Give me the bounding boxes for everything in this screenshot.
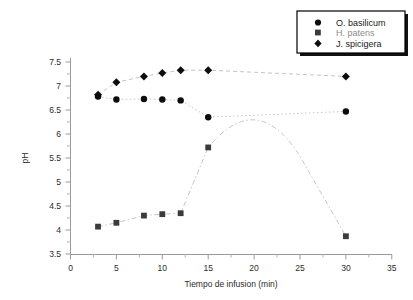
x-axis-title: Tiempo de infusion (min) [184,279,277,289]
legend-label-h-patens: H. patens [336,28,375,38]
chart-container: O. basilicum H. patens J. spicigera 7.5 … [0,0,413,300]
data-point-square [95,224,101,230]
square-marker-icon [315,30,321,36]
data-point-square [141,213,147,219]
data-point-square [114,220,120,226]
data-point-circle [159,96,165,102]
legend: O. basilicum H. patens J. spicigera [297,11,408,56]
data-point-square [343,233,349,239]
data-point-circle [113,96,119,102]
y-tick-label: 4 [56,225,61,235]
x-tick-label: 25 [295,263,305,273]
y-tick-label: 5 [56,177,61,187]
y-tick-label: 7.5 [49,57,61,67]
data-point-square [178,210,184,216]
data-point-circle [177,97,183,103]
legend-label-o-basilicum: O. basilicum [336,18,386,28]
data-point-circle [141,96,147,102]
y-tick-label: 6 [56,129,61,139]
data-point-square [159,211,165,217]
x-tick-label: 15 [203,263,213,273]
x-tick-label: 0 [68,263,73,273]
x-tick-label: 10 [158,263,168,273]
data-point-circle [343,108,349,114]
x-tick-label: 30 [341,263,351,273]
y-tick-label: 3.5 [49,249,61,259]
y-tick-label: 5.5 [49,153,61,163]
y-tick-label: 6.5 [49,105,61,115]
legend-label-j-spicigera: J. spicigera [336,39,382,49]
y-tick-label: 7 [56,81,61,91]
y-axis-title: pH [20,153,30,164]
x-tick-label: 35 [387,263,397,273]
x-tick-label: 5 [114,263,119,273]
data-point-square [205,145,211,151]
chart-svg: O. basilicum H. patens J. spicigera 7.5 … [0,0,413,300]
x-tick-label: 20 [249,263,259,273]
data-point-circle [205,114,211,120]
circle-marker-icon [315,19,321,25]
y-tick-label: 4.5 [49,201,61,211]
